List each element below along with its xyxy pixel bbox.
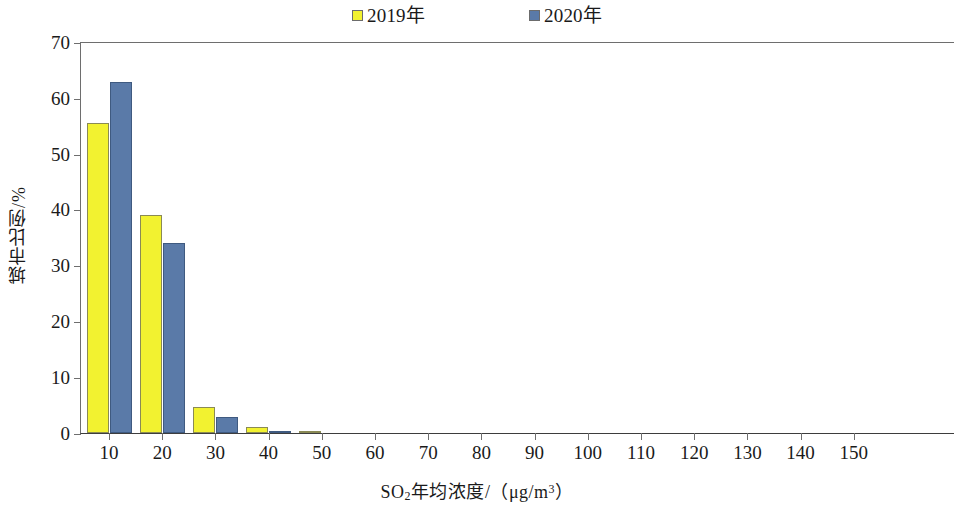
y-axis-tick-label: 20 [51, 312, 70, 331]
bar-chart: 2019年 2020年 城市比例/% 010203040506070102030… [0, 0, 954, 509]
legend-label-2019: 2019年 [367, 6, 425, 25]
y-axis-tick-label: 30 [51, 256, 70, 275]
x-axis-tick-label: 120 [680, 443, 709, 462]
x-axis-tick-label: 60 [366, 443, 385, 462]
x-axis-title-text: SO2年均浓度/（μg/m3） [380, 482, 573, 502]
y-axis-tick [74, 155, 81, 156]
bar-2019年-50 [299, 431, 321, 433]
y-axis-tick-label: 60 [51, 89, 70, 108]
x-axis-tick-label: 80 [472, 443, 491, 462]
x-axis-tick-label: 10 [100, 443, 119, 462]
y-axis-tick [74, 322, 81, 323]
bar-2020年-20 [163, 243, 185, 433]
bar-2019年-40 [246, 427, 268, 433]
x-axis-tick [269, 433, 270, 440]
y-axis-tick [74, 266, 81, 267]
x-axis-tick-label: 50 [312, 443, 331, 462]
x-axis-tick [162, 433, 163, 440]
x-axis-tick-label: 150 [840, 443, 869, 462]
x-axis-tick [854, 433, 855, 440]
bar-2019年-20 [140, 215, 162, 433]
bar-2019年-30 [193, 407, 215, 433]
bar-2020年-30 [216, 417, 238, 433]
x-axis-title: SO2年均浓度/（μg/m3） [0, 477, 954, 504]
legend-swatch-2020 [529, 10, 540, 21]
x-axis-tick-label: 90 [525, 443, 544, 462]
legend-item-2019: 2019年 [352, 6, 425, 25]
x-axis-tick [215, 433, 216, 440]
y-axis-tick [74, 43, 81, 44]
y-axis-tick [74, 210, 81, 211]
x-axis-tick [428, 433, 429, 440]
x-axis-tick-label: 110 [627, 443, 655, 462]
legend-swatch-2019 [352, 10, 363, 21]
x-axis-tick [694, 433, 695, 440]
x-axis-tick [481, 433, 482, 440]
y-axis-tick [74, 434, 81, 435]
bar-2020年-10 [110, 82, 132, 433]
x-axis-tick-label: 100 [574, 443, 603, 462]
x-axis-tick-label: 20 [153, 443, 172, 462]
x-axis-tick-label: 140 [786, 443, 815, 462]
bar-2020年-40 [269, 431, 291, 433]
y-axis-tick-label: 10 [51, 368, 70, 387]
x-axis-tick-label: 40 [259, 443, 278, 462]
x-axis-tick-label: 30 [206, 443, 225, 462]
y-axis-title: 城市比例/% [6, 0, 32, 509]
y-axis-tick-label: 0 [61, 424, 71, 443]
y-axis-tick-label: 70 [51, 33, 70, 52]
chart-legend: 2019年 2020年 [0, 6, 954, 25]
plot-area: 0102030405060701020304050607080901001101… [80, 42, 954, 434]
x-axis-tick-label: 70 [419, 443, 438, 462]
legend-item-2020: 2020年 [529, 6, 602, 25]
x-axis-tick [375, 433, 376, 440]
x-axis-tick [322, 433, 323, 440]
y-axis-title-text: 城市比例/% [6, 186, 32, 284]
x-axis-tick [535, 433, 536, 440]
x-axis-tick [109, 433, 110, 440]
y-axis-tick [74, 378, 81, 379]
x-axis-tick [641, 433, 642, 440]
x-axis-tick-label: 130 [733, 443, 762, 462]
x-axis-tick [747, 433, 748, 440]
bar-2019年-10 [87, 123, 109, 433]
y-axis-tick [74, 99, 81, 100]
y-axis-tick-label: 50 [51, 145, 70, 164]
y-axis-tick-label: 40 [51, 200, 70, 219]
x-axis-tick [588, 433, 589, 440]
x-axis-tick [801, 433, 802, 440]
legend-label-2020: 2020年 [544, 6, 602, 25]
